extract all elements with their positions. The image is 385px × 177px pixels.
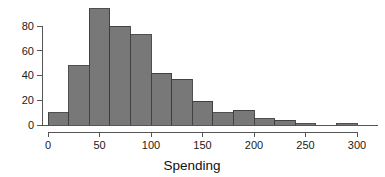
histogram-bar — [213, 113, 234, 125]
histogram-bar — [110, 26, 131, 125]
y-axis-tick-label: 40 — [22, 69, 34, 81]
x-axis-tick-label: 300 — [348, 139, 366, 151]
histogram-bar — [151, 73, 172, 125]
x-axis-tick-label: 150 — [193, 139, 211, 151]
histogram-bar — [48, 113, 69, 125]
x-axis-title: Spending — [163, 158, 220, 173]
y-axis-tick-label: 80 — [22, 20, 34, 32]
histogram-bar — [130, 35, 151, 125]
chart-canvas: 020406080 050100150200250300 Spending — [0, 0, 385, 177]
histogram-bar — [192, 101, 213, 125]
x-axis-tick-label: 50 — [93, 139, 105, 151]
x-axis-tick-label: 200 — [245, 139, 263, 151]
histogram-bar — [233, 110, 254, 125]
histogram-bar — [275, 120, 296, 125]
x-axis-tick-label: 0 — [45, 139, 51, 151]
x-axis-tick-label: 100 — [142, 139, 160, 151]
histogram-bar — [254, 119, 275, 125]
histogram-chart: 020406080 050100150200250300 Spending — [0, 0, 385, 177]
histogram-bar — [69, 66, 90, 125]
x-axis-tick-label: 250 — [296, 139, 314, 151]
y-axis-tick-label: 0 — [28, 119, 34, 131]
histogram-bar — [172, 79, 193, 125]
y-axis-tick-label: 20 — [22, 94, 34, 106]
histogram-bar — [89, 9, 110, 125]
y-axis-tick-label: 60 — [22, 45, 34, 57]
